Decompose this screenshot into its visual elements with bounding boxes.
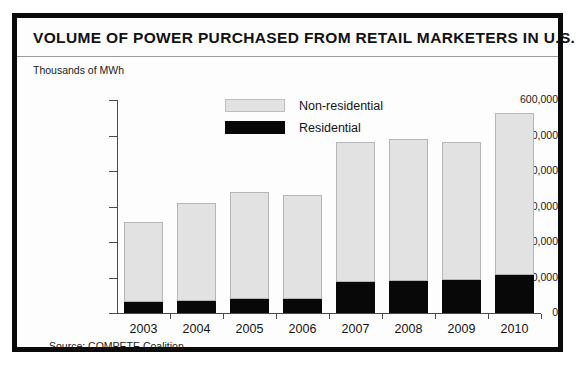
x-axis-tick xyxy=(170,314,171,319)
bar-segment-residential xyxy=(230,299,269,313)
legend-swatch-residential-icon xyxy=(225,121,285,134)
x-axis-tick xyxy=(276,314,277,319)
legend-swatch-non-residential-icon xyxy=(225,99,285,112)
bar-2007 xyxy=(336,142,375,313)
bar-segment-non-residential xyxy=(336,142,375,282)
x-axis-tick xyxy=(435,314,436,319)
plot-area: 0100,000200,000300,000400,000500,000600,… xyxy=(17,18,558,347)
x-axis-tick xyxy=(382,314,383,319)
x-axis-tick xyxy=(329,314,330,319)
bar-segment-residential xyxy=(389,281,428,313)
x-axis-tick xyxy=(488,314,489,319)
bar-segment-non-residential xyxy=(389,139,428,281)
legend-label-residential: Residential xyxy=(299,121,361,135)
bar-2004 xyxy=(177,203,216,313)
y-axis-tick xyxy=(109,136,118,137)
bar-2008 xyxy=(389,139,428,313)
chart-figure-frame: VOLUME OF POWER PURCHASED FROM RETAIL MA… xyxy=(12,13,563,352)
y-axis-tick xyxy=(109,171,118,172)
bar-2006 xyxy=(283,195,322,313)
bar-2010 xyxy=(495,113,534,313)
x-axis-label-2007: 2007 xyxy=(329,322,382,336)
x-axis-label-2004: 2004 xyxy=(170,322,223,336)
bar-segment-non-residential xyxy=(283,195,322,299)
bar-segment-non-residential xyxy=(230,192,269,299)
y-axis-tick xyxy=(109,278,118,279)
bar-segment-non-residential xyxy=(495,113,534,275)
bar-2003 xyxy=(124,222,163,313)
x-axis-label-2009: 2009 xyxy=(435,322,488,336)
bar-segment-residential xyxy=(283,299,322,313)
bar-segment-residential xyxy=(124,302,163,313)
y-axis-tick xyxy=(109,313,118,314)
chart-inner-panel: VOLUME OF POWER PURCHASED FROM RETAIL MA… xyxy=(17,18,558,347)
x-axis-tick xyxy=(223,314,224,319)
legend-label-non-residential: Non-residential xyxy=(299,99,383,113)
bar-segment-residential xyxy=(177,301,216,313)
legend-item-non-residential: Non-residential xyxy=(225,96,383,118)
x-axis-label-2005: 2005 xyxy=(223,322,276,336)
x-axis-label-2003: 2003 xyxy=(117,322,170,336)
chart-legend: Non-residential Residential xyxy=(225,96,383,140)
legend-item-residential: Residential xyxy=(225,118,383,140)
y-axis-tick xyxy=(109,242,118,243)
bar-segment-non-residential xyxy=(442,142,481,280)
y-axis-tick-label: 600,000 xyxy=(472,93,558,105)
source-note: Source: COMPETE Coalition xyxy=(49,340,184,352)
bar-segment-residential xyxy=(495,275,534,313)
bar-2009 xyxy=(442,142,481,313)
bar-segment-non-residential xyxy=(124,222,163,302)
bar-2005 xyxy=(230,192,269,313)
x-axis-label-2010: 2010 xyxy=(488,322,541,336)
x-axis-tick xyxy=(541,314,542,319)
bar-segment-residential xyxy=(442,280,481,313)
x-axis-label-2006: 2006 xyxy=(276,322,329,336)
x-axis-label-2008: 2008 xyxy=(382,322,435,336)
y-axis-tick xyxy=(109,207,118,208)
bar-segment-residential xyxy=(336,282,375,313)
bar-segment-non-residential xyxy=(177,203,216,301)
y-axis-tick xyxy=(109,100,118,101)
